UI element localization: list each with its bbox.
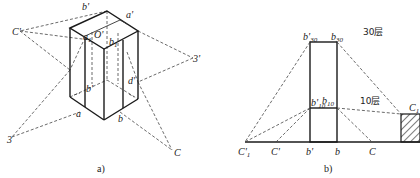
label-b1: b1 <box>109 36 118 49</box>
projection-lines-b <box>245 42 401 142</box>
caption-b: b) <box>324 163 332 175</box>
label-a1: a1 <box>83 31 92 44</box>
label-3: 3 <box>6 134 12 145</box>
figure-a: b' a' a1 O' b1 C' 3' d' b' a b 3 C a) <box>6 1 201 175</box>
label-b: b <box>118 113 123 124</box>
building-30-floors <box>310 42 337 142</box>
label-C: C <box>369 146 376 157</box>
label-a: a <box>76 108 81 119</box>
label-b-prime: b' <box>306 146 314 157</box>
hatched-obstacle <box>401 114 420 142</box>
label-C1: C1 <box>409 102 419 115</box>
label-C-prime: C' <box>271 146 281 157</box>
label-d-prime: d' <box>128 75 136 86</box>
label-C-prime: C' <box>12 26 22 37</box>
label-30-floors: 30层 <box>363 27 383 37</box>
prism-box <box>70 11 138 120</box>
label-O-prime: O' <box>94 29 104 40</box>
label-C: C <box>174 147 181 158</box>
label-a-prime: a' <box>126 9 134 20</box>
caption-a: a) <box>97 163 105 175</box>
label-3-prime: 3' <box>192 53 201 64</box>
label-C1-prime: C'1 <box>238 146 250 159</box>
label-10-floors: 10层 <box>360 96 380 106</box>
label-b: b <box>335 146 340 157</box>
shadow-projection-diagram: b' a' a1 O' b1 C' 3' d' b' a b 3 C a) <box>0 0 420 178</box>
label-b-prime-mid: b' <box>86 83 94 94</box>
label-b-prime-top: b' <box>82 1 90 12</box>
label-b30-prime: b'30 <box>303 31 318 44</box>
figure-b: b'30 b30 30层 b'10 b10 10层 C1 C'1 C' b' b… <box>238 27 420 175</box>
